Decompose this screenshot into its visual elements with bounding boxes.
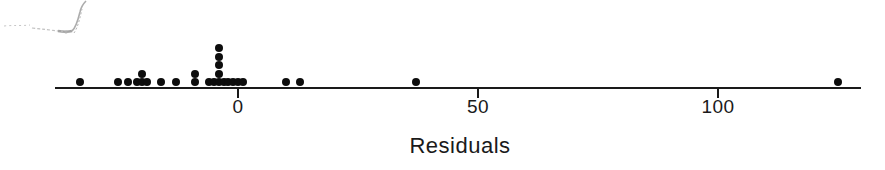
x-axis-tick-label: 0 xyxy=(232,96,243,118)
residuals-dotplot-figure: Residuals 050100 xyxy=(0,0,885,170)
data-point-dot xyxy=(296,78,304,86)
x-axis-title: Residuals xyxy=(409,133,510,159)
data-point-dot xyxy=(76,78,84,86)
data-point-dot xyxy=(215,44,223,52)
data-point-dot xyxy=(191,78,199,86)
data-point-dot xyxy=(124,78,132,86)
data-point-dot xyxy=(143,78,151,86)
data-point-dot xyxy=(215,70,223,78)
data-point-dot xyxy=(215,53,223,61)
data-point-dot xyxy=(157,78,165,86)
data-point-dot xyxy=(282,78,290,86)
data-point-dot xyxy=(412,78,420,86)
data-point-dot xyxy=(138,70,146,78)
data-point-dot xyxy=(172,78,180,86)
data-point-dot xyxy=(191,70,199,78)
x-axis-tick-label: 50 xyxy=(467,96,489,118)
x-axis-tick-label: 100 xyxy=(701,96,734,118)
data-point-dot xyxy=(239,78,247,86)
x-axis-line xyxy=(55,87,861,89)
data-point-dot xyxy=(114,78,122,86)
data-point-dot xyxy=(215,61,223,69)
data-point-dot xyxy=(834,78,842,86)
